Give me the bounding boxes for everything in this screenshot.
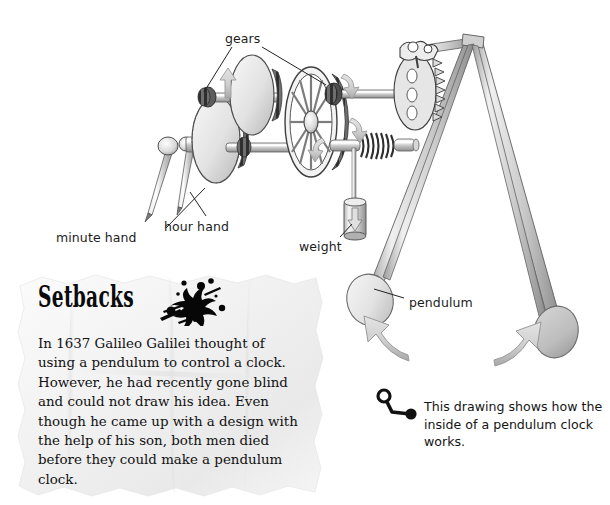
page-root: gears hour hand minute hand weight pendu… xyxy=(0,0,610,505)
label-hour-hand: hour hand xyxy=(164,219,229,234)
clock-weight xyxy=(344,148,366,240)
gear-upper xyxy=(230,55,282,135)
label-gears: gears xyxy=(225,31,260,46)
swing-arrow-right-icon xyxy=(494,322,541,366)
setbacks-note: Setbacks I xyxy=(16,272,328,500)
caption-text: This drawing shows how the inside of a p… xyxy=(424,398,604,451)
ink-splat-icon xyxy=(154,278,230,326)
pin-marker-icon xyxy=(374,388,422,424)
note-heading: Setbacks xyxy=(38,282,134,312)
label-minute-hand: minute hand xyxy=(56,230,137,245)
label-weight: weight xyxy=(299,239,342,254)
gear-spoked-wheel xyxy=(285,67,348,177)
label-pendulum: pendulum xyxy=(409,295,473,310)
note-body: In 1637 Galileo Galilei thought of using… xyxy=(38,334,306,489)
note-content: Setbacks I xyxy=(16,272,328,500)
swing-arrow-left-icon xyxy=(364,316,409,361)
